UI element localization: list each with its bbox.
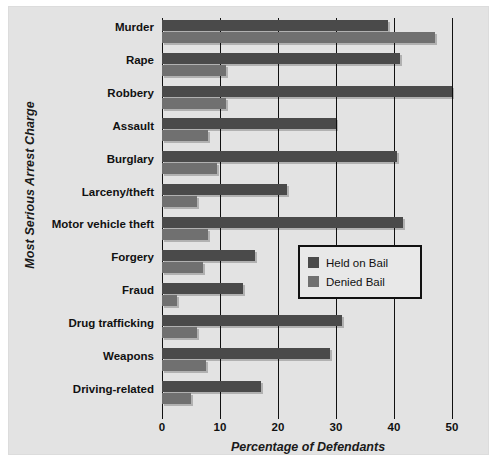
x-axis-title: Percentage of Defendants xyxy=(162,440,454,454)
bar-denied-bail xyxy=(162,32,435,43)
bar-denied-bail xyxy=(162,262,203,273)
category-label: Weapons xyxy=(0,350,154,362)
category-label: Robbery xyxy=(0,87,154,99)
bar-row: Robbery xyxy=(162,84,452,117)
bar-held-on-bail xyxy=(162,118,336,129)
bar-held-on-bail xyxy=(162,53,400,64)
legend-label: Denied Bail xyxy=(326,276,385,288)
bar-denied-bail xyxy=(162,130,208,141)
category-label: Driving-related xyxy=(0,383,154,395)
plot-area: 01020304050 MurderRapeRobberyAssaultBurg… xyxy=(162,18,452,412)
bar-held-on-bail xyxy=(162,217,403,228)
bar-row: Rape xyxy=(162,51,452,84)
bar-held-on-bail xyxy=(162,250,255,261)
bar-held-on-bail xyxy=(162,184,287,195)
bar-held-on-bail xyxy=(162,283,243,294)
bar-denied-bail xyxy=(162,360,206,371)
chart-figure: Most Serious Arrest Charge Percentage of… xyxy=(0,0,497,469)
legend-item[interactable]: Held on Bail xyxy=(308,253,412,272)
bar-row: Motor vehicle theft xyxy=(162,215,452,248)
bar-denied-bail xyxy=(162,163,217,174)
bar-denied-bail xyxy=(162,196,197,207)
category-label: Assault xyxy=(0,120,154,132)
x-tick-40 xyxy=(394,412,395,419)
category-label: Drug trafficking xyxy=(0,317,154,329)
bar-held-on-bail xyxy=(162,315,342,326)
category-label: Rape xyxy=(0,54,154,66)
legend-label: Held on Bail xyxy=(326,257,388,269)
bar-denied-bail xyxy=(162,229,208,240)
bar-held-on-bail xyxy=(162,151,397,162)
x-tick-label: 0 xyxy=(142,421,182,433)
bar-row: Murder xyxy=(162,18,452,51)
x-tick-label: 20 xyxy=(258,421,298,433)
x-tick-label: 30 xyxy=(316,421,356,433)
bar-denied-bail xyxy=(162,65,226,76)
category-label: Motor vehicle theft xyxy=(0,218,154,230)
bar-held-on-bail xyxy=(162,348,330,359)
legend-swatch-held-on-bail xyxy=(308,257,319,268)
legend-item[interactable]: Denied Bail xyxy=(308,272,412,291)
x-tick-50 xyxy=(452,412,453,419)
category-label: Fraud xyxy=(0,284,154,296)
x-tick-30 xyxy=(336,412,337,419)
bar-row: Weapons xyxy=(162,346,452,379)
category-label: Forgery xyxy=(0,251,154,263)
x-tick-10 xyxy=(220,412,221,419)
x-tick-20 xyxy=(278,412,279,419)
bar-held-on-bail xyxy=(162,86,452,97)
chart-legend: Held on Bail Denied Bail xyxy=(298,245,422,299)
bar-held-on-bail xyxy=(162,20,388,31)
gridline-50 xyxy=(452,18,453,412)
bar-row: Driving-related xyxy=(162,379,452,412)
x-tick-label: 40 xyxy=(374,421,414,433)
bar-held-on-bail xyxy=(162,381,261,392)
bar-row: Drug trafficking xyxy=(162,314,452,347)
x-tick-0 xyxy=(162,412,163,419)
legend-swatch-denied-bail xyxy=(308,276,319,287)
bar-denied-bail xyxy=(162,327,197,338)
bar-denied-bail xyxy=(162,98,226,109)
bar-denied-bail xyxy=(162,295,177,306)
category-label: Larceny/theft xyxy=(0,186,154,198)
bar-row: Assault xyxy=(162,117,452,150)
bar-row: Burglary xyxy=(162,149,452,182)
bar-denied-bail xyxy=(162,393,191,404)
category-label: Burglary xyxy=(0,153,154,165)
x-tick-label: 50 xyxy=(432,421,472,433)
category-label: Murder xyxy=(0,21,154,33)
x-tick-label: 10 xyxy=(200,421,240,433)
bar-row: Larceny/theft xyxy=(162,182,452,215)
